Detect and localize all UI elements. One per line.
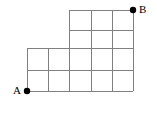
vertex-point-a [24, 88, 30, 94]
point-label-a: A [13, 85, 21, 96]
grid-points-group [24, 7, 136, 94]
lattice-grid-svg [0, 0, 157, 115]
vertex-point-b [130, 7, 136, 13]
grid-lines-group [27, 10, 133, 91]
point-label-b: B [139, 4, 146, 15]
lattice-figure: A B [0, 0, 157, 115]
